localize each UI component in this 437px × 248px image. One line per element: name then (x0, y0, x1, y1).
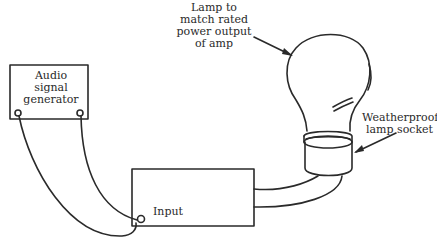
wire-generator-right-to-input (81, 116, 137, 220)
generator-label: Audio signal generator (22, 70, 80, 106)
socket-note-label: Weatherproof lamp socket (362, 112, 437, 136)
arrowhead-icon (354, 145, 364, 153)
wire-output-top (254, 176, 318, 190)
arrowhead-icon (282, 48, 293, 56)
diagram-canvas: Audio signal generator Lamp to match rat… (0, 0, 437, 248)
amplifier-input-label: Input (153, 206, 183, 218)
amplifier-input-terminal (138, 216, 145, 223)
generator-terminal-right (77, 110, 83, 116)
wire-output-bottom (254, 176, 342, 207)
wire-generator-left-to-input (19, 116, 136, 236)
lamp-note-label: Lamp to match rated power output of amp (176, 2, 252, 50)
generator-terminal-left (15, 110, 21, 116)
amplifier-box (132, 169, 254, 226)
lamp-bulb (287, 35, 370, 132)
